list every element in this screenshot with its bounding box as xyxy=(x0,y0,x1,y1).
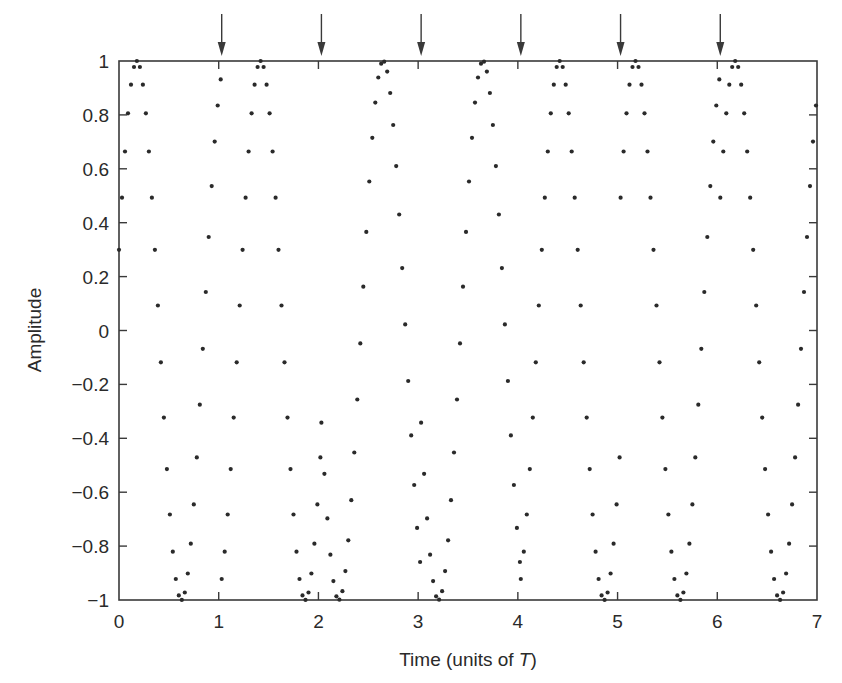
y-tick-label: 1 xyxy=(98,51,109,72)
y-axis-title: Amplitude xyxy=(24,288,45,373)
x-axis-ticks: 01234567 xyxy=(114,61,823,632)
x-tick-label: 0 xyxy=(114,611,125,632)
x-tick-label: 4 xyxy=(513,611,524,632)
down-arrow-icon xyxy=(218,14,226,56)
x-tick-label: 3 xyxy=(413,611,424,632)
x-tick-label: 5 xyxy=(612,611,623,632)
y-tick-label: 0 xyxy=(98,321,109,342)
down-arrow-icon xyxy=(417,14,425,56)
down-arrow-icon xyxy=(317,14,325,56)
down-arrow-icon xyxy=(617,14,625,56)
symbol-boundary-arrows xyxy=(218,14,725,56)
y-tick-label: 0.8 xyxy=(83,105,109,126)
x-tick-label: 7 xyxy=(812,611,823,632)
y-tick-label: 0.2 xyxy=(83,267,109,288)
x-tick-label: 6 xyxy=(712,611,723,632)
down-arrow-icon xyxy=(517,14,525,56)
y-tick-label: −0.8 xyxy=(71,536,109,557)
y-tick-label: −0.2 xyxy=(71,374,109,395)
amplitude-time-chart: 01234567 10.80.60.40.20−0.2−0.4−0.6−0.8−… xyxy=(0,0,842,683)
y-tick-label: −1 xyxy=(87,590,109,611)
x-tick-label: 2 xyxy=(313,611,324,632)
y-tick-label: 0.6 xyxy=(83,159,109,180)
y-axis-ticks: 10.80.60.40.20−0.2−0.4−0.6−0.8−1 xyxy=(71,51,817,611)
y-tick-label: −0.6 xyxy=(71,482,109,503)
x-axis-title: Time (units of T) xyxy=(399,649,537,670)
y-tick-label: −0.4 xyxy=(71,428,109,449)
down-arrow-icon xyxy=(716,14,724,56)
signal-samples xyxy=(117,59,818,602)
y-tick-label: 0.4 xyxy=(83,213,110,234)
x-tick-label: 1 xyxy=(213,611,224,632)
